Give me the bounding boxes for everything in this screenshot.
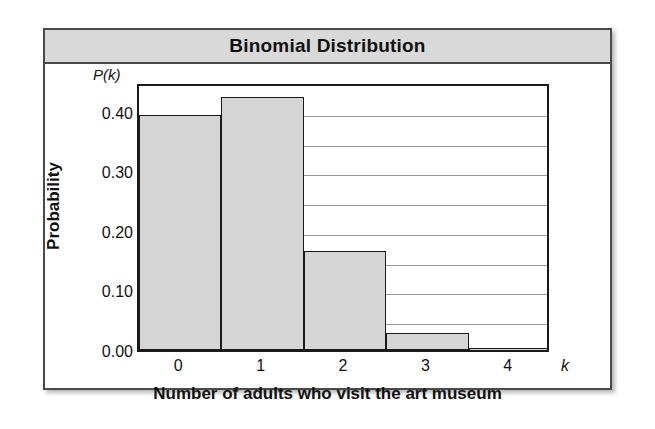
bar-1	[221, 97, 303, 350]
x-tick-label-4: 4	[488, 356, 528, 376]
chart-body: Probability P(k) 0.000.100.200.300.40 01…	[45, 64, 610, 388]
bar-0	[139, 115, 221, 350]
y-axis-tick-labels: 0.000.100.200.300.40	[73, 84, 133, 352]
plot-area	[137, 84, 549, 352]
bar-4	[469, 348, 549, 350]
x-axis-tick-labels: 01234	[137, 356, 549, 378]
bar-3	[386, 333, 468, 350]
y-tick-label: 0.40	[77, 106, 133, 122]
figure-frame: Binomial Distribution Probability P(k) 0…	[43, 28, 612, 390]
bar-2	[304, 251, 386, 350]
y-tick-label: 0.00	[77, 344, 133, 360]
x-tick-label-2: 2	[323, 356, 363, 376]
chart-title-bar: Binomial Distribution	[45, 30, 610, 64]
y-axis-title: Probability	[41, 116, 67, 296]
y-tick-label: 0.30	[77, 165, 133, 181]
x-axis-symbol-label: k	[561, 356, 569, 376]
y-tick-label: 0.10	[77, 284, 133, 300]
x-axis-title: Number of adults who visit the art museu…	[45, 384, 610, 404]
y-axis-symbol-label: P(k)	[93, 66, 121, 83]
chart-title: Binomial Distribution	[229, 35, 425, 57]
x-tick-label-0: 0	[158, 356, 198, 376]
y-tick-label: 0.20	[77, 225, 133, 241]
x-tick-label-3: 3	[405, 356, 445, 376]
x-tick-label-1: 1	[241, 356, 281, 376]
